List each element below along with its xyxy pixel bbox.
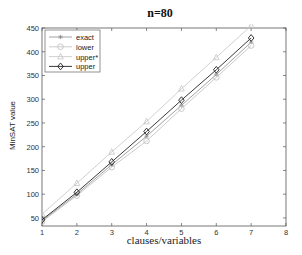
x-tick-label: 5 — [179, 228, 183, 237]
legend-label: exact — [76, 33, 95, 42]
legend-label: upper — [76, 62, 96, 71]
legend-label: lower — [76, 43, 94, 52]
x-tick-label: 2 — [75, 228, 79, 237]
y-tick-label: 250 — [26, 119, 39, 128]
x-tick-label: 6 — [214, 228, 218, 237]
y-tick-label: 200 — [26, 143, 39, 152]
legend-label: upper* — [76, 53, 98, 62]
x-tick-label: 4 — [144, 228, 148, 237]
y-tick-label: 450 — [26, 24, 39, 33]
x-tick-label: 1 — [40, 228, 44, 237]
y-tick-label: 150 — [26, 166, 39, 175]
y-tick-label: 350 — [26, 71, 39, 80]
legend: exactlowerupper*upper — [45, 30, 100, 72]
x-tick-label: 7 — [249, 228, 253, 237]
figure: n=80 MinSAT value clauses/variables 1234… — [0, 0, 302, 255]
y-tick-label: 300 — [26, 95, 39, 104]
x-tick-label: 8 — [284, 228, 288, 237]
x-tick-label: 3 — [110, 228, 114, 237]
y-tick-label: 100 — [26, 190, 39, 199]
y-tick-label: 400 — [26, 48, 39, 57]
y-tick-label: 50 — [31, 214, 39, 223]
plot-area: 1234567850100150200250300350400450exactl… — [0, 0, 302, 255]
